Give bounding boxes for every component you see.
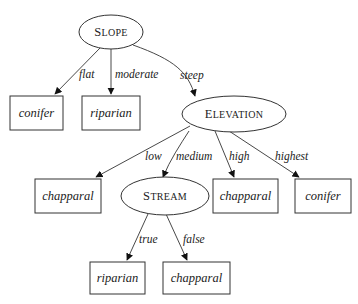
leaf-chapparal-false: chapparal — [163, 262, 230, 294]
edge-label-steep: steep — [180, 69, 204, 82]
edge-label-true: true — [139, 233, 158, 245]
leaf-label: conifer — [305, 189, 341, 203]
leaf-riparian-true: riparian — [90, 262, 145, 294]
node-stream: STREAM — [121, 177, 209, 215]
edge-labels: flat moderate steep low medium high high… — [79, 68, 309, 246]
leaf-label: riparian — [97, 271, 139, 285]
leaf-riparian-moderate: riparian — [82, 96, 140, 130]
edge-label-moderate: moderate — [115, 68, 158, 80]
leaf-conifer-flat: conifer — [10, 96, 63, 130]
leaf-conifer-highest: conifer — [295, 179, 351, 213]
node-elevation-label: ELEVATION — [205, 107, 263, 121]
edge-label-highest: highest — [275, 150, 309, 163]
leaf-label: conifer — [19, 106, 55, 120]
node-stream-label: STREAM — [143, 189, 187, 203]
edge-label-false: false — [183, 233, 205, 246]
edge-label-flat: flat — [79, 68, 95, 81]
node-slope-label: SLOPE — [94, 25, 127, 39]
leaf-chapparal-high: chapparal — [213, 179, 278, 213]
leaf-label: chapparal — [42, 189, 94, 203]
edge-label-low: low — [145, 150, 162, 162]
decision-tree-diagram: flat moderate steep low medium high high… — [0, 0, 358, 304]
node-elevation: ELEVATION — [182, 96, 286, 132]
edge-label-high: high — [229, 150, 250, 163]
node-slope: SLOPE — [79, 15, 143, 49]
leaf-label: chapparal — [171, 271, 223, 285]
leaf-label: chapparal — [220, 189, 272, 203]
leaf-chapparal-low: chapparal — [35, 179, 101, 213]
edge-label-medium: medium — [176, 150, 212, 162]
leaf-label: riparian — [90, 106, 132, 120]
